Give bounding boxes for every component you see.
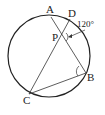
segment-CB [29, 73, 86, 94]
angle-arc-P [66, 33, 68, 41]
label-B: B [87, 71, 94, 83]
angle-label-120: 120° [77, 19, 95, 29]
label-P: P [52, 31, 58, 43]
label-C: C [23, 94, 30, 106]
arrowhead [68, 34, 72, 38]
label-D: D [68, 7, 76, 19]
angle-arc-B [76, 66, 79, 76]
segment-CD [29, 19, 70, 94]
label-A: A [46, 3, 54, 15]
circle-geometry-diagram: A D 120° P B C [0, 0, 105, 115]
